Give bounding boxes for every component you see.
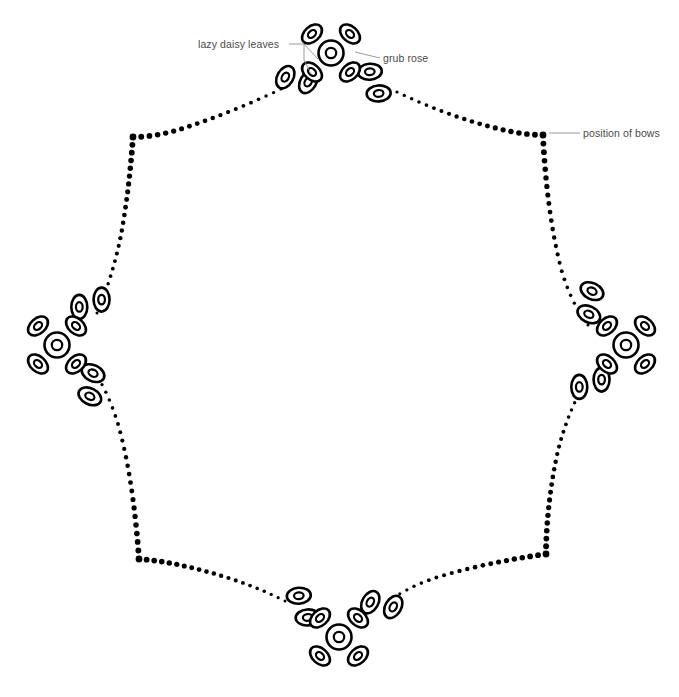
stitch-dot: [195, 121, 200, 126]
stitch-dot: [410, 97, 414, 101]
stitch-dot: [127, 472, 132, 477]
petal-inner-stitch: [576, 382, 583, 392]
stitch-dot: [116, 422, 120, 426]
stitch-dot: [210, 116, 215, 121]
stitch-dot: [277, 596, 280, 599]
stitch-dot: [174, 562, 179, 567]
lazy-daisy-leaf-1: [94, 288, 110, 312]
stitch-dot: [439, 109, 443, 113]
stitch-dot: [405, 588, 408, 591]
stitch-dot: [272, 91, 275, 94]
stitch-dot: [569, 294, 573, 298]
stitch-dot: [147, 133, 153, 139]
rose-centre-knot: [334, 632, 344, 642]
rose-centre-knot: [621, 340, 631, 350]
stitch-dot: [556, 252, 560, 256]
stitch-dot: [558, 261, 562, 265]
stitch-dot: [493, 125, 498, 130]
stitch-dot: [218, 113, 222, 117]
stitch-dot: [284, 600, 287, 603]
stitch-dot: [138, 134, 144, 140]
stitch-dot: [544, 528, 550, 534]
stitch-dot: [547, 497, 552, 502]
stitch-dot: [557, 444, 561, 448]
stitch-dot: [434, 576, 438, 580]
stitch-dot: [553, 459, 557, 463]
stitch-dot: [420, 581, 424, 585]
stitch-dot: [567, 415, 571, 419]
stitch-dot: [123, 205, 128, 210]
stitch-dot: [442, 573, 446, 577]
stitch-dot: [204, 569, 209, 574]
bow-position-marker-upper-right: [540, 132, 547, 139]
stitch-dot: [562, 277, 566, 281]
stitch-dot: [171, 128, 176, 133]
petal-inner-stitch: [365, 68, 375, 75]
stitch-dot: [109, 274, 113, 278]
stitch-dot: [570, 408, 574, 412]
petal-inner-stitch: [98, 295, 105, 305]
rose-centre-knot: [326, 48, 336, 58]
stitch-dot: [500, 127, 505, 132]
stitch-dot: [427, 578, 431, 582]
stitch-dot: [447, 112, 451, 116]
stitch-dot: [264, 94, 268, 98]
lazy-daisy-leaf-1: [357, 63, 382, 81]
stitch-dot: [129, 489, 134, 494]
stitch-dot: [535, 552, 541, 558]
stitch-dot: [132, 514, 137, 519]
stitch-dot: [219, 574, 223, 578]
stitch-dot: [118, 236, 122, 240]
stitch-dot: [524, 131, 530, 137]
stitch-dot: [543, 536, 549, 542]
stitch-dot: [108, 398, 112, 402]
rose-centre-knot: [52, 340, 62, 350]
stitch-dot: [462, 117, 467, 122]
stitch-dot: [122, 213, 127, 218]
stitch-dot: [134, 531, 140, 537]
stitch-dot: [111, 406, 115, 410]
stitch-dot: [115, 251, 119, 255]
bow-position-marker-lower-left: [136, 556, 143, 563]
stitch-dot: [248, 584, 252, 588]
petal-inner-stitch: [598, 375, 605, 385]
stitch-dot: [465, 567, 470, 572]
stitch-dot: [552, 235, 556, 239]
stitch-dot: [124, 197, 129, 202]
stitch-dot: [203, 118, 208, 123]
stitch-dot: [545, 520, 550, 525]
stitch-dot: [189, 565, 194, 570]
stitch-dot: [144, 557, 150, 563]
stitch-dot: [573, 401, 576, 404]
stitch-dot: [151, 558, 157, 564]
stitch-dot: [234, 578, 238, 582]
stitch-dot: [133, 522, 138, 527]
pattern-diagram-canvas: lazy daisy leavesgrub roseposition of bo…: [0, 0, 679, 697]
stitch-dot: [412, 585, 415, 588]
stitch-dot: [554, 244, 558, 248]
stitch-dot: [548, 490, 553, 495]
stitch-dot: [477, 121, 482, 126]
stitch-dot: [212, 571, 217, 576]
stitch-dot: [541, 141, 547, 147]
stitch-dot: [551, 475, 556, 480]
stitch-dot: [548, 210, 553, 215]
stitch-dot: [128, 480, 133, 485]
bow-position-marker-lower-right: [543, 551, 550, 558]
stitch-dot: [167, 560, 172, 565]
stitch-dot: [234, 107, 238, 111]
stitch-dot: [545, 513, 550, 518]
stitch-dot: [257, 98, 261, 102]
stitch-dot: [163, 130, 168, 135]
lazy-daisy-leaf-1: [286, 587, 311, 605]
stitch-dot: [129, 142, 135, 148]
stitch-dot: [543, 175, 548, 180]
stitch-dot: [131, 505, 136, 510]
stitch-dot: [241, 104, 245, 108]
stitch-dot: [544, 184, 549, 189]
stitch-dot: [159, 559, 165, 565]
stitch-dot: [106, 282, 110, 286]
stitch-dot: [187, 124, 192, 129]
stitch-dot: [566, 286, 570, 290]
annotation-label-grub-rose: grub rose: [383, 52, 428, 64]
